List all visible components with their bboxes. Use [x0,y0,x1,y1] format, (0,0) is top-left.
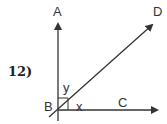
ray-bd [49,25,152,117]
label-d: D [153,4,162,19]
label-b: B [44,99,53,114]
label-c: C [118,95,127,110]
label-a: A [53,4,62,19]
angle-x-label: x [76,99,83,114]
problem-number: 12) [8,64,32,79]
angle-y-label: y [63,80,70,95]
geometry-diagram: 12) A D B C y x [0,0,167,124]
